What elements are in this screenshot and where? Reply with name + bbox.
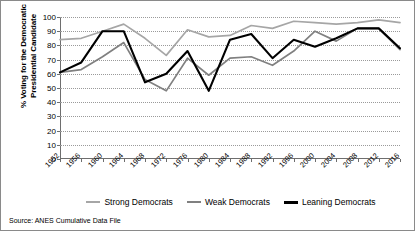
y-axis-tick-label: 30 [47,112,56,121]
series-line-strong-democrats [60,20,400,56]
legend-swatch [86,201,100,203]
series-line-leaning-democrats [60,28,400,90]
series-lines [60,17,400,159]
y-axis-tick-label: 10 [47,140,56,149]
y-axis-tick-label: 90 [47,27,56,36]
legend-item[interactable]: Strong Democrats [86,197,173,207]
x-axis-tick-mark [400,159,401,162]
source-note: Source: ANES Cumulative Data File [9,217,121,224]
x-axis-tick-mark [251,159,252,162]
x-axis-tick-mark [166,159,167,162]
chart-figure: % Voting for the Democratic Presidential… [0,0,415,231]
y-axis-title: % Voting for the Democratic Presidential… [16,0,42,131]
x-axis-tick-mark [230,159,231,162]
x-axis-tick-mark [81,159,82,162]
y-axis-tick-label: 100 [43,13,56,22]
x-axis-tick-mark [103,159,104,162]
x-axis-tick-mark [294,159,295,162]
x-axis-tick-mark [124,159,125,162]
x-axis-tick-mark [358,159,359,162]
x-axis-tick-mark [336,159,337,162]
legend-swatch [187,201,201,203]
y-axis-tick-label: 80 [47,41,56,50]
y-axis-tick-label: 50 [47,84,56,93]
y-axis-tick-label: 70 [47,55,56,64]
x-axis-tick-mark [379,159,380,162]
x-axis-tick-mark [145,159,146,162]
legend-label: Strong Democrats [104,197,173,207]
chart-legend: Strong DemocratsWeak DemocratsLeaning De… [61,197,401,207]
legend-label: Leaning Democrats [302,197,376,207]
x-axis-tick-mark [273,159,274,162]
series-line-weak-democrats [60,28,400,90]
legend-item[interactable]: Weak Democrats [187,197,270,207]
plot-area: 0102030405060708090100 19521956196019641… [60,17,400,159]
y-axis-tick-label: 60 [47,69,56,78]
y-axis-tick-label: 20 [47,126,56,135]
legend-item[interactable]: Leaning Democrats [284,197,376,207]
legend-label: Weak Democrats [205,197,270,207]
x-axis-tick-mark [60,159,61,162]
x-axis-tick-label: 1952 [43,151,61,169]
y-axis-tick-label: 40 [47,98,56,107]
x-axis-tick-mark [315,159,316,162]
legend-swatch [284,201,298,204]
x-axis-tick-mark [188,159,189,162]
x-axis-tick-mark [209,159,210,162]
